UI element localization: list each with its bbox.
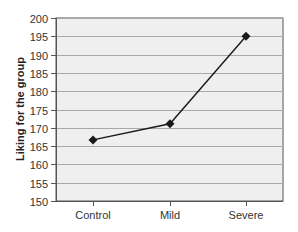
x-tick-label: Control bbox=[75, 209, 110, 221]
y-axis: 150155160165170175180185190195200 bbox=[30, 13, 57, 208]
line-chart: 150155160165170175180185190195200 Contro… bbox=[0, 0, 298, 232]
y-tick-label: 155 bbox=[30, 178, 48, 190]
x-tick-label: Mild bbox=[160, 209, 180, 221]
y-tick-label: 150 bbox=[30, 196, 48, 208]
y-axis-title: Liking for the group bbox=[14, 57, 26, 161]
x-tick-label: Severe bbox=[229, 209, 264, 221]
y-tick-label: 195 bbox=[30, 31, 48, 43]
y-tick-label: 160 bbox=[30, 159, 48, 171]
y-tick-label: 175 bbox=[30, 105, 48, 117]
x-axis: ControlMildSevere bbox=[56, 201, 283, 221]
y-tick-label: 190 bbox=[30, 50, 48, 62]
y-tick-label: 180 bbox=[30, 86, 48, 98]
plot-area bbox=[56, 18, 283, 201]
y-tick-label: 200 bbox=[30, 13, 48, 25]
y-tick-label: 165 bbox=[30, 141, 48, 153]
y-tick-label: 185 bbox=[30, 68, 48, 80]
y-tick-label: 170 bbox=[30, 123, 48, 135]
